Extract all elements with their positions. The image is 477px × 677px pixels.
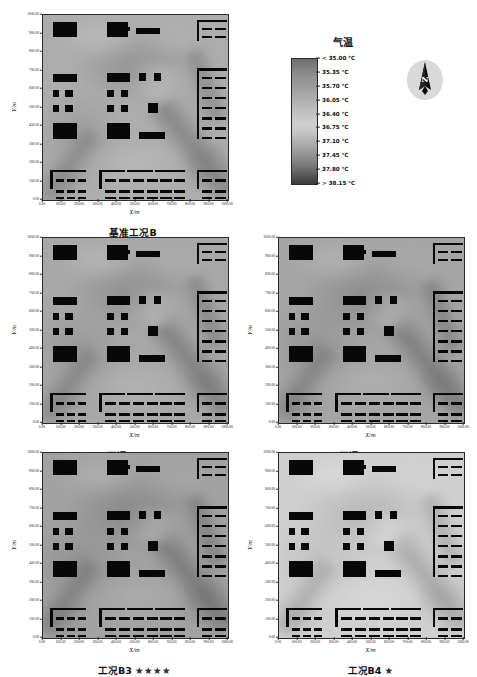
building-footprint <box>197 506 199 577</box>
building-footprint <box>341 617 352 619</box>
building-footprint <box>433 458 435 479</box>
building-footprint <box>215 28 226 30</box>
heatmap-canvas-b4[interactable] <box>278 452 465 639</box>
building-footprint <box>357 528 364 535</box>
building-footprint <box>451 515 462 517</box>
building-footprint <box>202 628 212 630</box>
building-footprint <box>341 628 352 630</box>
building-footprint <box>99 608 125 610</box>
building-footprint <box>410 402 420 404</box>
building-footprint <box>433 458 464 460</box>
building-footprint <box>215 413 226 415</box>
building-footprint <box>105 402 116 404</box>
y-tick-mark <box>40 255 43 256</box>
building-footprint <box>292 402 300 404</box>
building-footprint <box>78 402 85 404</box>
colorbar-gradient-bar[interactable] <box>291 58 318 185</box>
building-footprint <box>56 413 64 415</box>
building-footprint <box>197 68 228 70</box>
building-footprint <box>56 190 64 192</box>
building-footprint <box>314 617 321 619</box>
heatmap-canvas-b3[interactable] <box>42 452 229 639</box>
x-tick-label: 0.00 <box>39 640 45 644</box>
building-footprint <box>391 393 421 395</box>
building-footprint <box>107 90 114 97</box>
building-footprint <box>99 393 101 412</box>
x-tick-label: 100.00 <box>56 202 66 206</box>
building-footprint <box>215 320 226 322</box>
building-footprint <box>433 243 435 264</box>
y-tick-mark <box>40 237 43 238</box>
building-footprint <box>335 393 337 412</box>
x-tick-mark <box>60 637 61 640</box>
building-footprint <box>127 170 153 172</box>
y-tick-mark <box>276 311 279 312</box>
y-tick-mark <box>40 125 43 126</box>
building-footprint <box>53 561 77 577</box>
heatmap-canvas-b1[interactable] <box>42 237 229 424</box>
x-tick-mark <box>153 422 154 425</box>
y-tick-label: 1000.00 <box>27 12 39 16</box>
y-tick-mark <box>276 581 279 582</box>
building-footprint <box>53 565 57 568</box>
x-tick-mark <box>352 637 353 640</box>
building-footprint <box>197 20 199 41</box>
building-footprint <box>343 528 350 535</box>
x-tick-label: 0.00 <box>39 202 45 206</box>
x-tick-mark <box>426 422 427 425</box>
building-footprint <box>215 617 226 619</box>
x-tick-label: 700.00 <box>403 425 413 429</box>
y-tick-label: 0.00 <box>33 420 39 424</box>
y-tick-mark <box>40 366 43 367</box>
building-footprint <box>107 543 114 550</box>
heatmap-canvas-b2[interactable] <box>278 237 465 424</box>
building-footprint <box>119 628 130 630</box>
colorbar-tick-label: 35.70 ℃ <box>316 83 348 89</box>
building-footprint <box>215 127 226 129</box>
building-footprint <box>121 328 128 335</box>
panel-caption-b3: 工况B3★★★★ <box>42 663 227 677</box>
building-footprint <box>363 393 389 395</box>
building-footprint <box>396 413 407 415</box>
y-tick-label: 200.00 <box>265 598 275 602</box>
y-tick-mark <box>40 618 43 619</box>
building-footprint <box>148 103 157 113</box>
heatmap-canvas-baseline[interactable] <box>42 14 229 201</box>
building-footprint <box>410 413 420 415</box>
x-tick-mark <box>42 422 43 425</box>
building-footprint <box>139 73 146 80</box>
building-footprint <box>383 628 394 630</box>
building-footprint <box>341 402 352 404</box>
panel-rating-stars: ★★★★ <box>135 665 171 676</box>
building-footprint <box>215 259 226 261</box>
building-footprint <box>438 259 448 261</box>
y-tick-mark <box>40 311 43 312</box>
y-tick-mark <box>40 106 43 107</box>
x-tick-mark <box>134 199 135 202</box>
building-footprint <box>105 628 116 630</box>
plot-area-b4: 0.00100.00200.00300.00400.00500.00600.00… <box>278 452 463 637</box>
building-footprint <box>451 259 462 261</box>
building-footprint <box>53 24 57 28</box>
building-footprint <box>451 565 462 567</box>
x-tick-mark <box>407 637 408 640</box>
building-footprint <box>215 137 226 139</box>
building-footprint <box>53 127 57 130</box>
building-footprint <box>433 393 464 395</box>
building-footprint <box>202 575 212 577</box>
building-footprint <box>107 528 114 535</box>
x-tick-label: 0.00 <box>39 425 45 429</box>
building-footprint <box>202 137 212 139</box>
x-tick-label: 800.00 <box>185 202 195 206</box>
building-footprint <box>197 243 199 264</box>
colorbar-tick-label: 37.10 ℃ <box>316 138 348 144</box>
building-footprint <box>107 313 114 320</box>
heat-field-blob <box>57 14 140 60</box>
x-tick-label: 900.00 <box>440 640 450 644</box>
building-footprint <box>292 617 300 619</box>
building-footprint <box>303 413 311 415</box>
x-tick-mark <box>134 637 135 640</box>
y-tick-label: 800.00 <box>29 49 39 53</box>
building-footprint <box>215 77 226 79</box>
x-tick-mark <box>190 422 191 425</box>
